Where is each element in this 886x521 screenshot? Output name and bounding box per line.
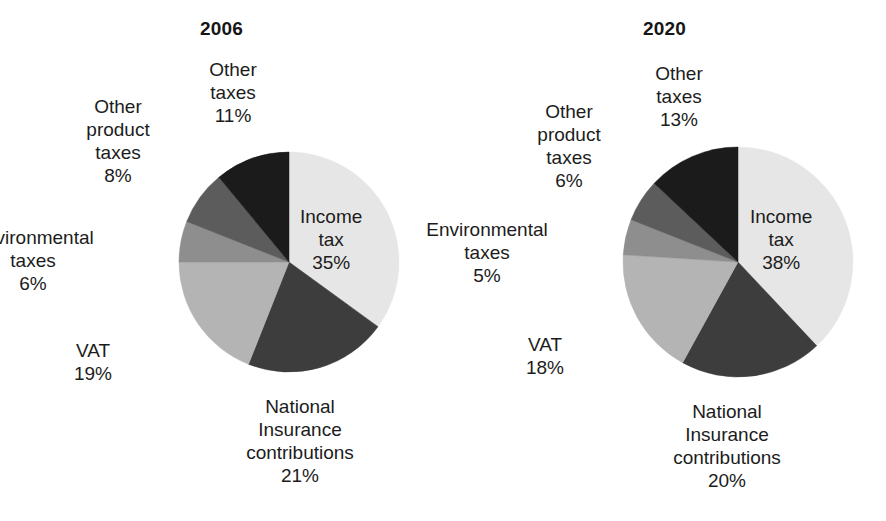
slice-label-line: 18% [526, 356, 564, 379]
pie-graphic-2006 [175, 148, 403, 376]
chart-title-2020: 2020 [443, 18, 886, 40]
slice-label-line: Other [86, 95, 149, 118]
slice-label-line: 21% [246, 464, 354, 487]
slice-label-line: taxes [655, 85, 703, 108]
slice-label-line: 5% [426, 264, 547, 287]
slice-label-line: Insurance [246, 418, 354, 441]
figure-canvas: 2006 2020 Incometax35%NationalInsurancec… [0, 0, 886, 521]
slice-label-line: Income [750, 205, 812, 228]
slice-label-line: 20% [673, 469, 781, 492]
slice-label-line: National [246, 395, 354, 418]
slice-label-line: 38% [750, 251, 812, 274]
slice-label-line: taxes [537, 146, 600, 169]
slice-label-line: 11% [209, 104, 257, 127]
chart-title-2006: 2006 [0, 18, 443, 40]
slice-label-line: Income [300, 205, 362, 228]
slice-label-line: 6% [537, 169, 600, 192]
slice-label-national_insurance: NationalInsurancecontributions20% [673, 400, 781, 492]
slice-label-line: taxes [86, 141, 149, 164]
slice-label-income_tax: Incometax38% [750, 205, 812, 274]
slice-label-line: 35% [300, 251, 362, 274]
slice-label-other_product_taxes: Otherproducttaxes6% [537, 100, 600, 192]
slice-label-line: taxes [209, 81, 257, 104]
slice-label-line: product [537, 123, 600, 146]
slice-label-vat: VAT19% [74, 339, 112, 385]
slice-label-line: product [86, 118, 149, 141]
slice-label-line: Other [209, 58, 257, 81]
slice-label-national_insurance: NationalInsurancecontributions21% [246, 395, 354, 487]
slice-label-line: 6% [0, 272, 94, 295]
slice-label-environmental_taxes: Environmentaltaxes6% [0, 226, 94, 295]
slice-label-line: taxes [0, 249, 94, 272]
slice-label-line: Environmental [0, 226, 94, 249]
slice-label-other_taxes: Othertaxes11% [209, 58, 257, 127]
slice-label-other_taxes: Othertaxes13% [655, 62, 703, 131]
slice-label-income_tax: Incometax35% [300, 205, 362, 274]
slice-label-line: Other [655, 62, 703, 85]
slice-label-environmental_taxes: Environmentaltaxes5% [426, 218, 547, 287]
slice-label-line: contributions [246, 441, 354, 464]
slice-label-line: tax [300, 228, 362, 251]
slice-label-line: Other [537, 100, 600, 123]
slice-label-line: contributions [673, 446, 781, 469]
slice-label-line: 13% [655, 108, 703, 131]
slice-label-line: taxes [426, 241, 547, 264]
slice-label-line: 19% [74, 362, 112, 385]
pie-graphic-2020 [619, 143, 857, 381]
slice-label-vat: VAT18% [526, 333, 564, 379]
slice-label-line: tax [750, 228, 812, 251]
slice-label-line: 8% [86, 164, 149, 187]
slice-label-line: National [673, 400, 781, 423]
slice-label-line: VAT [74, 339, 112, 362]
slice-label-other_product_taxes: Otherproducttaxes8% [86, 95, 149, 187]
slice-label-line: Environmental [426, 218, 547, 241]
slice-label-line: VAT [526, 333, 564, 356]
slice-label-line: Insurance [673, 423, 781, 446]
